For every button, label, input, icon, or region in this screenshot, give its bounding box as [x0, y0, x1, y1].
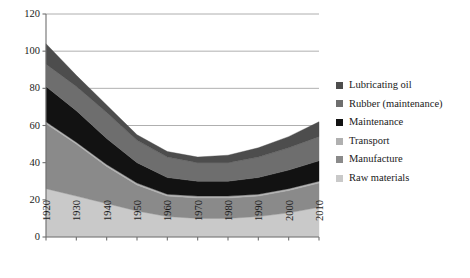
- legend-item-manufacture: Manufacture: [336, 150, 466, 169]
- x-tick-label: 1920: [42, 200, 53, 240]
- x-tick-label: 2010: [315, 200, 326, 240]
- legend-swatch-icon: [336, 100, 343, 107]
- x-tick-label: 1970: [194, 200, 205, 240]
- legend-label: Manufacture: [349, 154, 403, 165]
- legend-label: Lubricating oil: [349, 80, 412, 91]
- x-tick-label: 1980: [224, 200, 235, 240]
- legend-item-rubber-maintenance: Rubber (maintenance): [336, 95, 466, 114]
- stacked-area-chart-figure: 020406080100120 192019301940195019601970…: [0, 0, 470, 278]
- legend-label: Raw materials: [349, 173, 409, 184]
- legend-swatch-icon: [336, 82, 343, 89]
- legend-item-maintenance: Maintenance: [336, 113, 466, 132]
- legend-swatch-icon: [336, 175, 343, 182]
- x-tick-label: 1960: [163, 200, 174, 240]
- legend-swatch-icon: [336, 119, 343, 126]
- x-tick-label: 1940: [103, 200, 114, 240]
- legend-label: Rubber (maintenance): [349, 99, 443, 110]
- x-tick-label: 1930: [72, 200, 83, 240]
- x-tick-label: 2000: [285, 200, 296, 240]
- legend-label: Maintenance: [349, 117, 403, 128]
- legend-swatch-icon: [336, 138, 343, 145]
- x-tick-label: 1950: [133, 200, 144, 240]
- legend-item-lubricating-oil: Lubricating oil: [336, 76, 466, 95]
- legend-swatch-icon: [336, 156, 343, 163]
- chart-legend: Lubricating oilRubber (maintenance)Maint…: [336, 76, 466, 188]
- legend-item-raw-materials: Raw materials: [336, 169, 466, 188]
- legend-label: Transport: [349, 136, 389, 147]
- x-tick-label: 1990: [254, 200, 265, 240]
- legend-item-transport: Transport: [336, 132, 466, 151]
